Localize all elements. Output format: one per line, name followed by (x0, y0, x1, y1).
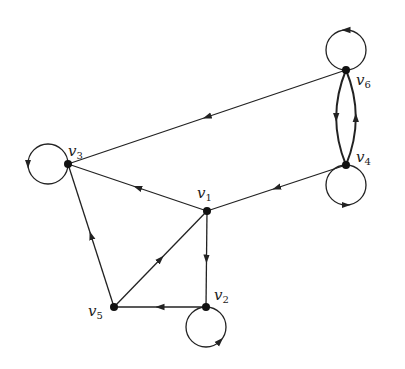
self-loop-v4 (326, 165, 366, 205)
edge-v5-v1 (114, 211, 207, 307)
node-v3 (64, 160, 72, 168)
edge-v6-v4 (336, 70, 346, 165)
node-label-v3: v3 (68, 142, 83, 161)
edge-v4-v1 (207, 165, 346, 211)
node-label-v1: v1 (197, 184, 212, 203)
edge-v1-v3 (68, 164, 207, 211)
node-v4 (342, 161, 350, 169)
node-v6 (342, 66, 350, 74)
node-label-v6: v6 (356, 71, 371, 90)
self-loop-v6 (326, 30, 366, 70)
edge-v6-v3 (68, 70, 346, 164)
node-label-v4: v4 (356, 148, 371, 167)
directed-graph: v1v2v3v4v5v6 (0, 0, 405, 369)
edge-v5-v3 (68, 164, 114, 307)
node-label-v2: v2 (214, 286, 229, 305)
self-loop-v2 (186, 307, 226, 347)
edges-layer (68, 70, 356, 307)
edge-v1-v2 (206, 211, 207, 307)
self-loop-v3 (28, 144, 68, 184)
labels-layer: v1v2v3v4v5v6 (68, 71, 371, 321)
node-v5 (110, 303, 118, 311)
nodes-layer (64, 66, 350, 311)
node-v2 (202, 303, 210, 311)
edge-v4-v6 (346, 70, 356, 165)
node-v1 (203, 207, 211, 215)
node-label-v5: v5 (88, 302, 103, 321)
